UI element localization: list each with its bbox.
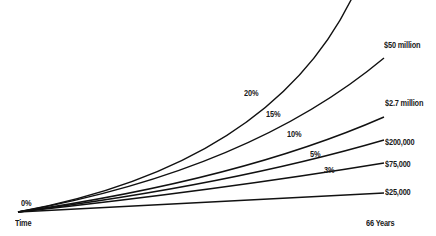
value-label-3: $75,000 — [385, 159, 411, 169]
value-label-0: $25,000 — [385, 187, 411, 197]
curve-15pct — [18, 58, 384, 212]
x-axis-start-label: Time — [15, 218, 31, 228]
x-axis-end-label: 66 Years — [366, 218, 395, 228]
growth-curves — [0, 0, 436, 236]
curve-20pct — [18, 0, 352, 212]
value-label-10: $2.7 million — [385, 98, 423, 108]
value-label-15: $50 million — [384, 40, 420, 50]
rate-label-0: 0% — [21, 198, 31, 208]
value-label-5: $200,000 — [385, 137, 414, 147]
rate-label-3: 3% — [324, 165, 334, 175]
curve-0pct — [18, 193, 384, 212]
rate-label-5: 5% — [310, 149, 320, 159]
rate-label-20: 20% — [244, 88, 258, 98]
rate-label-15: 15% — [266, 109, 280, 119]
rate-label-10: 10% — [287, 129, 301, 139]
